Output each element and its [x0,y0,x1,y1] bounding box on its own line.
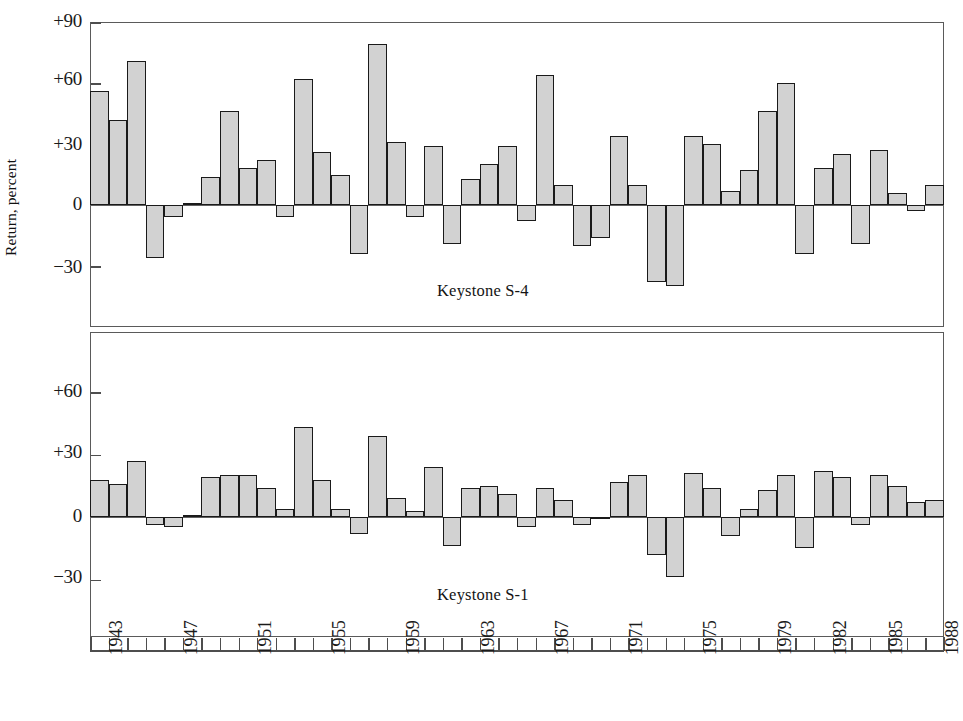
x-tick-mark [90,638,91,651]
panel-caption: Keystone S-1 [437,585,529,605]
x-tick-mark [424,638,425,651]
bar [276,509,295,517]
x-tick-mark [517,638,518,651]
bar [517,517,536,527]
x-tick-mark [610,638,611,651]
bar [833,477,852,517]
bar [554,500,573,517]
bar [814,471,833,517]
bar [443,517,462,546]
bar [90,480,109,518]
x-tick-mark [870,638,871,651]
bar [536,488,555,517]
x-tick-label: 1985 [886,621,907,655]
bar [480,486,499,517]
x-tick-mark [146,638,147,651]
x-tick-mark [164,638,165,651]
bar [313,480,332,518]
bar [907,502,926,517]
x-tick-mark [461,638,462,651]
bar [461,488,480,517]
x-tick-label: 1951 [255,621,276,655]
x-tick-mark [740,638,741,651]
bar [925,500,944,517]
bar [795,517,814,548]
bar [740,509,759,517]
x-tick-mark [350,638,351,651]
bar [331,509,350,517]
bar [703,488,722,517]
bar [647,517,666,555]
x-tick-mark [239,638,240,651]
x-tick-label: 1975 [700,621,721,655]
bar [666,517,685,577]
bar [257,488,276,517]
x-tick-mark [220,638,221,651]
bar [888,486,907,517]
bar [591,517,610,519]
bar [573,517,592,525]
bar [424,467,443,517]
bar [109,484,128,517]
x-tick-mark [721,638,722,651]
bar [294,427,313,517]
bar [239,475,258,517]
x-tick-label: 1943 [106,621,127,655]
x-tick-mark [684,638,685,651]
bar [350,517,369,534]
x-tick-mark [443,638,444,651]
x-tick-mark [313,638,314,651]
bar [127,461,146,517]
bar [387,498,406,517]
bar [684,473,703,517]
x-tick-label: 1979 [775,621,796,655]
x-tick-mark [758,638,759,651]
x-tick-mark [536,638,537,651]
x-tick-mark [368,638,369,651]
bar [628,475,647,517]
x-tick-label: 1963 [478,621,499,655]
x-tick-mark [591,638,592,651]
bar [777,475,796,517]
bar [406,511,425,517]
bar [498,494,517,517]
x-tick-mark [666,638,667,651]
bar [758,490,777,517]
x-tick-label: 1947 [181,621,202,655]
bar [164,517,183,527]
bar [610,482,629,517]
bar [201,477,220,517]
x-tick-label: 1988 [942,621,963,655]
x-tick-mark [647,638,648,651]
bar [851,517,870,525]
x-tick-mark [851,638,852,651]
x-tick-mark [294,638,295,651]
x-tick-mark [127,638,128,651]
bar [183,515,202,517]
x-tick-mark [387,638,388,651]
x-tick-mark [907,638,908,651]
x-tick-label: 1967 [552,621,573,655]
x-tick-label: 1982 [830,621,851,655]
x-tick-mark [925,638,926,651]
x-tick-label: 1955 [329,621,350,655]
bar [870,475,889,517]
x-tick-mark [814,638,815,651]
bar [220,475,239,517]
bar [721,517,740,536]
x-tick-label: 1959 [403,621,424,655]
bar [146,517,165,525]
bar [368,436,387,517]
x-tick-label: 1971 [626,621,647,655]
